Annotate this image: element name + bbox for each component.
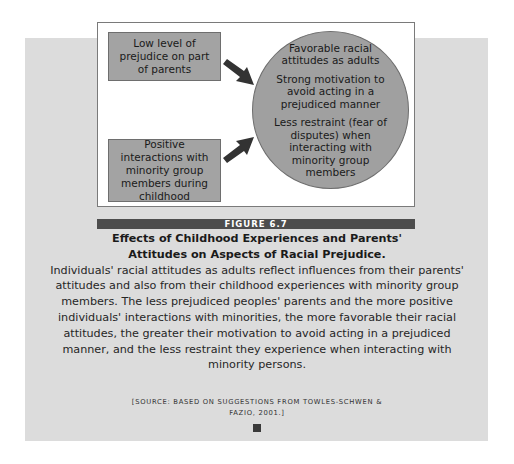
- outcome-favorable-attitudes: Favorable racial attitudes as adults: [275, 42, 387, 67]
- figure-caption: Effects of Childhood Experiences and Par…: [40, 231, 474, 373]
- cause-label: Positive interactions with minority grou…: [113, 138, 216, 203]
- outcome-circle: Favorable racial attitudes as adults Str…: [252, 31, 409, 189]
- source-citation: [SOURCE: BASED ON SUGGESTIONS FROM TOWLE…: [120, 397, 394, 419]
- end-of-figure-square-icon: [253, 424, 261, 432]
- arrow-down-right-icon: [222, 59, 256, 87]
- caption-title: Effects of Childhood Experiences and Par…: [40, 231, 474, 263]
- outcome-motivation: Strong motivation to avoid acting in a p…: [265, 73, 397, 111]
- cause-label: Low level of prejudice on part of parent…: [113, 37, 216, 76]
- figure-label-banner: FIGURE 6.7: [97, 219, 415, 229]
- outcome-less-restraint: Less restraint (fear of disputes) when i…: [266, 116, 396, 179]
- caption-body: Individuals' racial attitudes as adults …: [40, 263, 474, 374]
- cause-box-childhood-interactions: Positive interactions with minority grou…: [108, 139, 221, 202]
- arrow-up-right-icon: [222, 135, 256, 163]
- diagram: Low level of prejudice on part of parent…: [97, 22, 415, 207]
- cause-box-parental-prejudice: Low level of prejudice on part of parent…: [108, 32, 221, 81]
